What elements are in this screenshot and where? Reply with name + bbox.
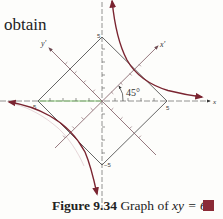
angle-45-marker: 45° [119, 86, 140, 101]
y-axis [102, 2, 105, 208]
end-of-example-mark [203, 200, 214, 211]
x-axis-label: x [212, 98, 217, 106]
y-tick-neg5: −5 [104, 162, 112, 168]
hyperbola-branch-upper [112, 1, 202, 97]
figure-caption: Figure 9.34 Graph of xy = 6 [52, 198, 207, 214]
textbook-page: obtain [0, 0, 223, 219]
x-tick-5: 5 [166, 105, 170, 111]
caption-equation: xy = 6 [172, 198, 207, 213]
x-prime-axis: x′ [55, 40, 166, 148]
x-prime-label: x′ [159, 40, 166, 49]
hyperbola-figure: x x′ [0, 0, 223, 219]
caption-text: Graph of [120, 198, 172, 213]
y-prime-label: y′ [40, 39, 47, 48]
figure-number: Figure 9.34 [52, 198, 117, 213]
angle-45-label: 45° [126, 87, 140, 98]
